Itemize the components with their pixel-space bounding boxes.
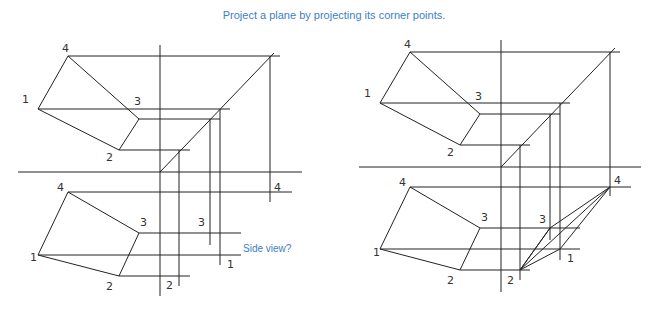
svg-text:4: 4 bbox=[399, 176, 406, 189]
svg-text:2: 2 bbox=[507, 274, 514, 287]
svg-text:2: 2 bbox=[106, 151, 113, 164]
svg-text:2: 2 bbox=[166, 279, 173, 292]
projection-drawings: 1 4 3 2 4 3 1 2 4 3 1 2 1 4 3 bbox=[0, 0, 668, 309]
svg-text:1: 1 bbox=[30, 251, 37, 264]
svg-text:2: 2 bbox=[447, 146, 454, 159]
svg-text:4: 4 bbox=[614, 174, 621, 187]
svg-text:1: 1 bbox=[567, 252, 574, 265]
svg-text:2: 2 bbox=[106, 280, 113, 293]
svg-text:2: 2 bbox=[447, 274, 454, 287]
svg-text:3: 3 bbox=[134, 95, 141, 108]
right-figure: 1 4 3 2 4 3 1 2 4 3 1 2 bbox=[359, 38, 641, 292]
left-figure: 1 4 3 2 4 3 1 2 4 3 1 2 bbox=[18, 42, 302, 296]
svg-text:3: 3 bbox=[140, 216, 147, 229]
svg-text:1: 1 bbox=[227, 258, 234, 271]
svg-text:1: 1 bbox=[22, 93, 29, 106]
svg-text:4: 4 bbox=[404, 38, 411, 51]
svg-text:3: 3 bbox=[198, 216, 205, 229]
svg-text:4: 4 bbox=[57, 181, 64, 194]
svg-text:3: 3 bbox=[481, 211, 488, 224]
svg-text:1: 1 bbox=[364, 87, 371, 100]
svg-text:3: 3 bbox=[475, 90, 482, 103]
svg-text:4: 4 bbox=[62, 42, 69, 55]
svg-text:4: 4 bbox=[274, 181, 281, 194]
svg-text:1: 1 bbox=[373, 246, 380, 259]
svg-text:3: 3 bbox=[539, 213, 546, 226]
